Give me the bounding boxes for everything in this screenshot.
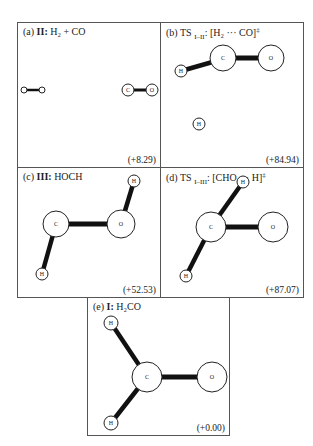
svg-text:H: H (40, 271, 45, 277)
panel-c-hoch: (c) III: HOCH C O H H (+52.53) (17, 167, 161, 298)
svg-text:H: H (197, 121, 202, 127)
molecule-h2co: C O H H (88, 298, 231, 437)
svg-text:C: C (126, 87, 130, 93)
svg-text:C: C (221, 55, 225, 61)
svg-text:H: H (109, 420, 114, 426)
svg-text:H: H (184, 273, 189, 279)
molecule-ts-cho-h: C O H H (161, 168, 305, 299)
molecule-hoch: C O H H (18, 168, 162, 299)
molecule-ts-h2-co: H C O H (161, 23, 305, 169)
atom-h (21, 87, 27, 93)
molecule-h2-co: C O (18, 23, 162, 169)
svg-text:O: O (150, 87, 155, 93)
svg-text:O: O (269, 55, 274, 61)
svg-text:C: C (145, 374, 149, 380)
svg-text:C: C (209, 224, 213, 230)
atom-h (39, 87, 45, 93)
svg-text:O: O (271, 224, 276, 230)
panel-a-h2-co: (a) II: H₂ + CO C O (+8.29) (17, 22, 161, 168)
svg-text:H: H (179, 68, 184, 74)
svg-text:H: H (241, 179, 246, 185)
energy-value: (+87.07) (266, 285, 299, 295)
svg-text:C: C (54, 221, 58, 227)
energy-value: (+52.53) (123, 285, 156, 295)
svg-text:H: H (109, 320, 114, 326)
energy-value: (+0.00) (197, 423, 225, 433)
panel-e-h2co: (e) I: H₂CO C O H H (+0.00) (87, 297, 230, 436)
panel-b-ts-i-ii: (b) TS I–II: [H₂ ··· CO]‡ H C O H (+84.9… (160, 22, 304, 168)
panel-d-ts-i-iii: (d) TS I–III: [CHO ··· H]‡ C O H H (+87.… (160, 167, 304, 298)
svg-text:O: O (210, 374, 215, 380)
svg-text:O: O (119, 221, 124, 227)
energy-value: (+8.29) (128, 155, 156, 165)
energy-value: (+84.94) (266, 155, 299, 165)
svg-text:H: H (132, 178, 137, 184)
